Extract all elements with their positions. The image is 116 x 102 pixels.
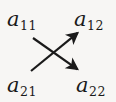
matrix-entry-a22-base: a xyxy=(76,73,89,97)
matrix-entry-a22: a22 xyxy=(76,75,105,96)
matrix-entry-a12-base: a xyxy=(74,7,87,31)
matrix-entry-a12: a12 xyxy=(74,9,103,30)
matrix-entry-a22-subscript: 22 xyxy=(89,84,106,99)
matrix-entry-a21-subscript: 21 xyxy=(20,84,37,99)
matrix-entry-a21-base: a xyxy=(7,73,20,97)
matrix-entry-a12-subscript: 12 xyxy=(87,18,104,33)
matrix-entry-a11: a11 xyxy=(7,9,36,30)
matrix-entry-a21: a21 xyxy=(7,75,36,96)
matrix-entry-a11-base: a xyxy=(7,7,20,31)
matrix-cross-diagram: a11 a12 a21 a22 xyxy=(0,0,116,102)
matrix-entry-a11-subscript: 11 xyxy=(20,18,37,33)
